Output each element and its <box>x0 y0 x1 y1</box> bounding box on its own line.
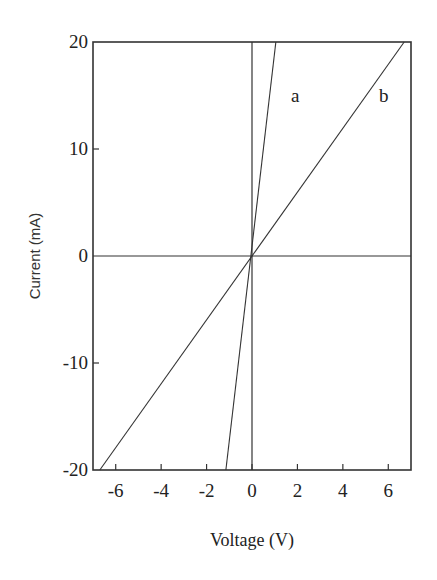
y-tick-label: -20 <box>63 459 88 480</box>
y-tick-label: 20 <box>69 31 88 52</box>
series-label-b: b <box>379 85 389 106</box>
x-tick-label: 6 <box>384 480 394 501</box>
series-label-a: a <box>291 85 300 106</box>
x-axis-label: Voltage (V) <box>210 530 294 551</box>
chart: -6-4-20246-20-1001020 abVoltage (V)Curre… <box>0 0 437 580</box>
x-tick-label: 0 <box>247 480 257 501</box>
x-tick-label: -2 <box>199 480 215 501</box>
x-tick-label: 4 <box>338 480 348 501</box>
y-tick-label: 0 <box>79 245 89 266</box>
x-tick-label: -4 <box>153 480 169 501</box>
y-axis-label: Current (mA) <box>26 213 43 300</box>
x-tick-label: -6 <box>108 480 124 501</box>
x-tick-label: 2 <box>293 480 303 501</box>
y-tick-label: 10 <box>69 138 88 159</box>
y-tick-label: -10 <box>63 352 88 373</box>
